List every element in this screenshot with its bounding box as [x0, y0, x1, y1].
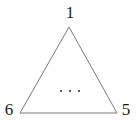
ellipsis-dot — [60, 90, 62, 92]
vertex-label-bottom-left: 6 — [2, 101, 16, 118]
triangle-shape — [20, 27, 117, 113]
ellipsis-dot — [78, 90, 80, 92]
ellipsis-icon — [60, 84, 80, 98]
polygon-diagram: 1 6 5 — [0, 0, 136, 123]
ellipsis-dot — [69, 90, 71, 92]
vertex-label-apex: 1 — [62, 4, 78, 21]
vertex-label-bottom-right: 5 — [119, 101, 133, 118]
